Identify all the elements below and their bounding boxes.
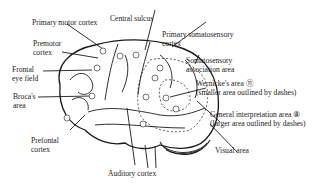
label-central-sulcus: Central sulcus <box>110 15 153 24</box>
label-auditory-cortex: Auditory cortex <box>108 170 156 179</box>
label-primary-somatosensory-2: cortex <box>162 40 181 49</box>
label-visual-area: Visual area <box>215 147 249 156</box>
label-general-interpretation-2: (larger area outlined by dashes) <box>210 120 306 129</box>
label-primary-motor-cortex: Primary motor cortex <box>32 19 97 28</box>
label-prefrontal-2: cortex <box>31 146 50 155</box>
label-wernicke-2: (smaller area outlined by dashes) <box>196 89 296 98</box>
label-somatosensory-assoc-2: association area <box>186 66 234 75</box>
label-premotor-2: cortex <box>33 49 52 58</box>
label-frontal-eye-2: eye field <box>12 75 38 84</box>
label-broca-2: area <box>13 102 26 111</box>
